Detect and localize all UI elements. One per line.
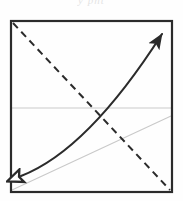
- figure-container: y pnt: [0, 0, 183, 201]
- solid-curve-double-arrow: [21, 34, 162, 176]
- dashed-diagonal: [13, 23, 170, 190]
- diagram-canvas: [0, 0, 183, 201]
